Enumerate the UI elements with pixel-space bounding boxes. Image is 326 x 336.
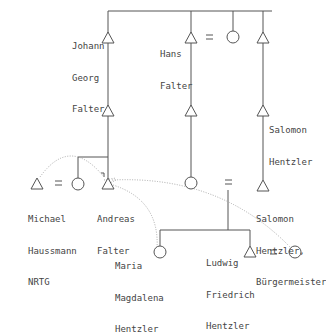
label-hans-falter: Hans Falter — [160, 28, 193, 102]
female-circle-hans-spouse — [227, 31, 239, 43]
label-salomon-hentzler-buergermeister: Salomon Hentzler, Bürgermeister — [256, 193, 326, 298]
male-triangle-hans-descendant — [185, 105, 197, 116]
female-circle-hans-descendant — [185, 177, 197, 189]
label-michael-haussmann: Michael Haussmann NRTG — [28, 193, 77, 298]
male-triangle-salomon — [257, 105, 269, 116]
marriage-symbol-hans — [206, 35, 213, 39]
label-salomon-hentzler: Salomon Hentzler — [269, 104, 312, 178]
dotted-arc-michael-andreas — [40, 156, 104, 177]
male-triangle-michael — [31, 178, 43, 189]
label-maria-magdalena-hentzler: Maria Magdalena Hentzler — [115, 240, 164, 336]
female-circle-andreas-sibling — [72, 178, 84, 190]
label-ludwig-friedrich-hentzler: Ludwig Friedrich Hentzler — [206, 237, 255, 336]
marriage-symbol-michael — [55, 181, 62, 185]
dotted-star-1 — [104, 178, 116, 180]
male-triangle-salomon-buergermeister — [257, 180, 269, 191]
label-johann-georg-falter: Johann Georg Falter — [72, 20, 105, 125]
marriage-symbol-bottom — [225, 180, 232, 184]
male-triangle-right-top — [257, 32, 269, 43]
